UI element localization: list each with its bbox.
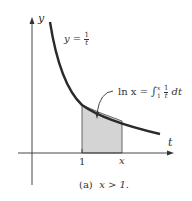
caption: (a) x > 1. bbox=[79, 179, 129, 190]
integral-lower: 1 bbox=[157, 92, 161, 100]
caption-text: x > 1. bbox=[99, 179, 129, 190]
pointer-arrow bbox=[97, 91, 113, 113]
curve-label-fraction: 1 t bbox=[84, 32, 88, 47]
x-axis-arrow-icon bbox=[167, 151, 174, 156]
integral-upper: x bbox=[157, 84, 161, 92]
tick-label-one: 1 bbox=[79, 156, 85, 167]
y-axis-arrow-icon bbox=[30, 17, 35, 24]
curve-label-lhs: y = bbox=[64, 33, 81, 44]
integral-dt: dt bbox=[172, 86, 182, 97]
caption-tag: (a) bbox=[79, 179, 93, 190]
shaded-area bbox=[82, 105, 122, 153]
y-axis-label: y bbox=[38, 12, 44, 25]
x-axis-label: t bbox=[168, 136, 172, 149]
integral-lhs: ln x = bbox=[118, 86, 148, 97]
integral-label: ln x = ∫x1 1 t dt bbox=[118, 84, 182, 100]
tick-label-x: x bbox=[119, 155, 125, 166]
curve-label: y = 1 t bbox=[64, 32, 89, 47]
diagram-canvas bbox=[0, 0, 192, 201]
integral-fraction: 1 t bbox=[164, 85, 168, 100]
